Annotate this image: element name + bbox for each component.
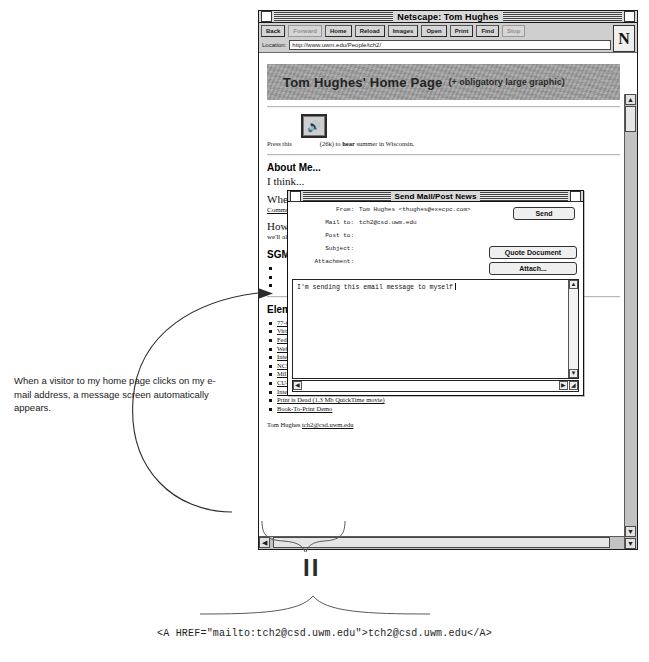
- scroll-down-arrow-icon-2[interactable]: ▼: [625, 538, 636, 549]
- mail-dialog-fields: From: Tom Hughes <thughes@execpc.com> Ma…: [288, 202, 583, 276]
- page-banner-graphic: Tom Hughes' Home Page (+ obligatory larg…: [267, 64, 620, 100]
- vertical-scroll-thumb[interactable]: [625, 106, 636, 132]
- titlebar-stripes-left: [274, 12, 446, 21]
- window-zoom-box[interactable]: [624, 11, 635, 22]
- sound-prefix: Press this: [267, 140, 292, 147]
- signature-email-link[interactable]: tch2@csd.uwm.edu: [302, 421, 353, 428]
- field-mail-to-label: Mail to:: [288, 219, 359, 226]
- sound-tail: summer in Wisconsin.: [356, 140, 414, 147]
- mail-bottom-left-arrow-icon[interactable]: ◀: [293, 381, 302, 390]
- toolbar-reload-button[interactable]: Reload: [355, 25, 385, 37]
- scroll-left-arrow-icon[interactable]: ◀: [259, 537, 270, 548]
- signature-line: Tom Hughes tch2@csd.uwm.edu: [267, 421, 624, 428]
- mail-dialog-zoom-box[interactable]: [570, 191, 581, 202]
- toolbar-back-button[interactable]: Back: [261, 25, 285, 37]
- link-book-to-print-demo[interactable]: Book-To-Print Demo: [277, 405, 332, 412]
- list-item: Print is Dead (1.3 Mb QuickTime movie): [277, 396, 624, 405]
- link-print-is-dead[interactable]: Print is Dead (1.3 Mb QuickTime movie): [277, 396, 385, 403]
- list-item: Book-To-Print Demo: [277, 405, 624, 414]
- text-caret: [455, 283, 456, 290]
- paragraph-1: I think...: [267, 177, 624, 188]
- brace-to-code-caption: [200, 596, 430, 614]
- field-mail-to[interactable]: Mail to: tch2@csd.uwm.edu: [288, 219, 583, 232]
- location-label: Location:: [262, 42, 286, 48]
- mail-body-text: I'm sending this email message to myself: [293, 280, 578, 294]
- toolbar-print-button[interactable]: Print: [450, 25, 474, 37]
- equals-symbol: II: [303, 556, 320, 580]
- netscape-logo-icon[interactable]: N: [613, 25, 635, 52]
- horizontal-scroll-thumb[interactable]: [273, 537, 610, 548]
- mail-body-vertical-scrollbar[interactable]: ▲ ▼: [568, 280, 578, 378]
- mail-dialog-bottom-bar[interactable]: ◀ ▶ ◢: [292, 380, 579, 392]
- page-horizontal-scrollbar[interactable]: ◀: [259, 536, 624, 549]
- page-vertical-scrollbar[interactable]: ▲ ▼ ▼: [624, 94, 637, 549]
- field-from-value: Tom Hughes <thughes@execpc.com>: [359, 206, 471, 213]
- mail-titlebar-stripes-right: [438, 192, 569, 201]
- sound-link-row: 🔊 Press this(26k) to hear summer in Wisc…: [267, 114, 624, 148]
- netscape-logo-letter: N: [618, 30, 630, 48]
- heading-about-me: About Me...: [267, 162, 624, 173]
- speaker-icon[interactable]: 🔊: [301, 114, 327, 138]
- paragraph-1-text: I think...: [267, 175, 304, 187]
- titlebar-stripes-right: [450, 12, 622, 21]
- mail-body-scroll-up-arrow-icon[interactable]: ▲: [569, 280, 578, 289]
- scroll-down-arrow-icon[interactable]: ▼: [625, 526, 636, 537]
- toolbar-home-button[interactable]: Home: [325, 25, 352, 37]
- field-subject-label: Subject:: [288, 245, 359, 252]
- mail-titlebar-stripes-left: [303, 192, 434, 201]
- toolbar-stop-button: Stop: [502, 25, 525, 37]
- speaker-icon-glyph: 🔊: [303, 116, 325, 136]
- signature-name: Tom Hughes: [267, 421, 300, 428]
- send-mail-dialog: Send Mail/Post News From: Tom Hughes <th…: [287, 190, 584, 396]
- divider-below-sound: [267, 154, 620, 156]
- send-button[interactable]: Send: [513, 207, 575, 220]
- location-bar: Location: http://www.uwm.edu/People/tch2…: [259, 38, 637, 52]
- toolbar-find-button[interactable]: Find: [476, 25, 499, 37]
- field-post-to[interactable]: Post to:: [288, 232, 583, 245]
- field-attachment-label: Attachment:: [288, 258, 359, 265]
- sound-link-text: Press this(26k) to hear summer in Wiscon…: [267, 140, 414, 147]
- mail-body-text-value: I'm sending this email message to myself: [297, 284, 453, 291]
- sound-size: (26k): [320, 140, 334, 147]
- page-banner-title: Tom Hughes' Home Page: [283, 75, 442, 90]
- location-input[interactable]: http://www.uwm.edu/People/tch2/: [289, 40, 611, 50]
- mail-body-scroll-down-arrow-icon[interactable]: ▼: [569, 369, 578, 378]
- mail-body-textarea[interactable]: I'm sending this email message to myself…: [292, 279, 579, 379]
- attach-button[interactable]: Attach...: [489, 262, 577, 275]
- field-post-to-label: Post to:: [288, 232, 359, 239]
- field-mail-to-value[interactable]: tch2@csd.uwm.edu: [359, 219, 417, 226]
- html-code-caption: <A HREF="mailto:tch2@csd.uwm.edu">tch2@c…: [0, 628, 649, 639]
- mail-resize-grip-icon[interactable]: ◢: [569, 381, 578, 390]
- annotation-callout-text: When a visitor to my home page clicks on…: [14, 374, 230, 415]
- quote-document-button[interactable]: Quote Document: [489, 246, 577, 259]
- toolbar-open-button[interactable]: Open: [421, 25, 446, 37]
- browser-titlebar: Netscape: Tom Hughes: [259, 11, 637, 23]
- sound-hear: hear: [342, 140, 355, 147]
- sound-to: to: [335, 140, 340, 147]
- browser-toolbar: Back Forward Home Reload Images Open Pri…: [259, 23, 637, 38]
- scroll-up-arrow-icon[interactable]: ▲: [625, 94, 636, 105]
- toolbar-forward-button: Forward: [288, 25, 322, 37]
- mail-dialog-titlebar: Send Mail/Post News: [288, 191, 583, 202]
- field-from-label: From:: [288, 206, 359, 213]
- page-banner-subtitle: (+ obligatory large graphic): [448, 77, 564, 87]
- toolbar-images-button[interactable]: Images: [388, 25, 419, 37]
- mail-bottom-right-arrow-icon[interactable]: ▶: [559, 381, 568, 390]
- divider-top: [267, 106, 620, 108]
- window-close-box[interactable]: [261, 11, 272, 22]
- mail-dialog-close-box[interactable]: [290, 191, 301, 202]
